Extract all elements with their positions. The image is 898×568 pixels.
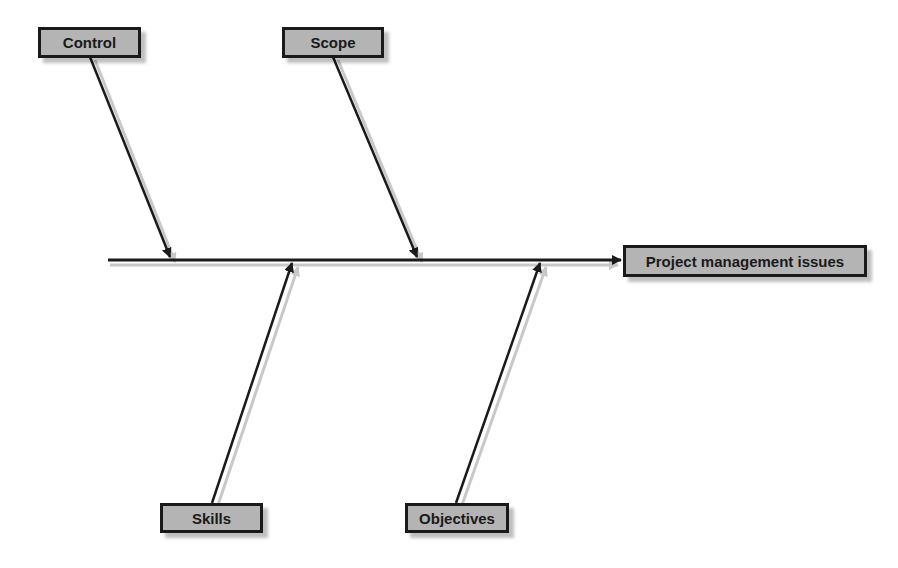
bone-scope bbox=[333, 57, 417, 257]
effect-box: Project management issues bbox=[623, 245, 867, 277]
cause-label: Objectives bbox=[419, 510, 495, 527]
bone-skills bbox=[212, 263, 292, 503]
effect-label: Project management issues bbox=[646, 253, 844, 270]
cause-box-skills: Skills bbox=[160, 503, 263, 533]
cause-box-scope: Scope bbox=[282, 27, 384, 58]
cause-label: Scope bbox=[310, 34, 355, 51]
cause-box-objectives: Objectives bbox=[405, 503, 509, 533]
cause-label: Skills bbox=[192, 510, 231, 527]
bone-objectives bbox=[456, 263, 540, 503]
fishbone-lines bbox=[0, 0, 898, 568]
cause-box-control: Control bbox=[38, 27, 141, 58]
cause-label: Control bbox=[63, 34, 116, 51]
bone-control bbox=[90, 57, 170, 257]
